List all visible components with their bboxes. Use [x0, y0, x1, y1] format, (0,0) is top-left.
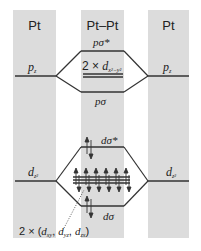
label-pz-left: pz: [28, 61, 36, 74]
label-dz2-right: dz²: [166, 166, 176, 179]
label-psigma-star: pσ*: [93, 37, 109, 48]
label-dx2y2: 2 × dx²−y²: [82, 60, 121, 73]
label-dsigma: dσ: [103, 211, 114, 222]
label-psigma: pσ: [95, 96, 106, 107]
label-dz2-left: dz²: [28, 166, 38, 179]
label-pz-right: pz: [163, 61, 171, 74]
label-degenerate-d: 2 × (dxy, dyz, dzx): [19, 226, 89, 238]
label-dsigma-star: dσ*: [101, 135, 117, 146]
